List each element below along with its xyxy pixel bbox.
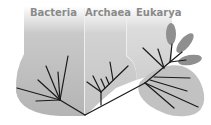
domain-label-archaea: Archaea bbox=[85, 7, 131, 18]
domain-label-bacteria: Bacteria bbox=[30, 7, 77, 18]
eukarya-petal bbox=[177, 53, 202, 67]
domain-label-eukarya: Eukarya bbox=[136, 7, 182, 18]
eukarya-petal bbox=[173, 31, 196, 56]
eukarya-petal bbox=[166, 23, 176, 45]
bacteria-region bbox=[16, 6, 84, 116]
tree-of-life-diagram bbox=[0, 0, 211, 125]
